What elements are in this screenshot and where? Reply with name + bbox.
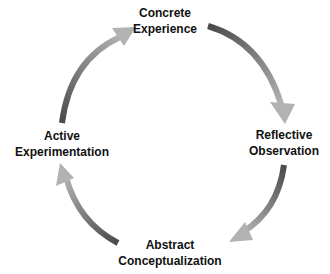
stage-label-line1: Active (8, 128, 116, 144)
stage-label-line2: Conceptualization (105, 253, 235, 269)
stage-concrete-experience: Concrete Experience (115, 5, 215, 37)
stage-label-line2: Observation (238, 143, 330, 159)
stage-label-line1: Concrete (115, 5, 215, 21)
stage-label-line1: Abstract (105, 237, 235, 253)
stage-label-line1: Reflective (238, 127, 330, 143)
arrow-reflective-to-abstract (229, 165, 284, 242)
arrow-abstract-to-active (56, 163, 118, 243)
stage-reflective-observation: Reflective Observation (238, 127, 330, 159)
arrow-concrete-to-reflective (208, 26, 295, 124)
stage-abstract-conceptualization: Abstract Conceptualization (105, 237, 235, 269)
stage-active-experimentation: Active Experimentation (8, 128, 116, 160)
stage-label-line2: Experimentation (8, 144, 116, 160)
stage-label-line2: Experience (115, 21, 215, 37)
arrow-active-to-concrete (62, 27, 136, 123)
